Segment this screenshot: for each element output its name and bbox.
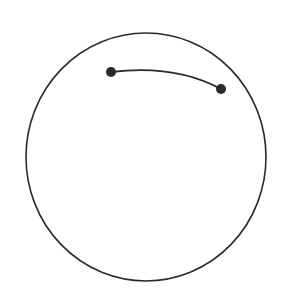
- arc-curve: [111, 70, 221, 89]
- point-right: [216, 84, 226, 94]
- diagram-canvas: [0, 0, 287, 290]
- point-left: [106, 67, 116, 77]
